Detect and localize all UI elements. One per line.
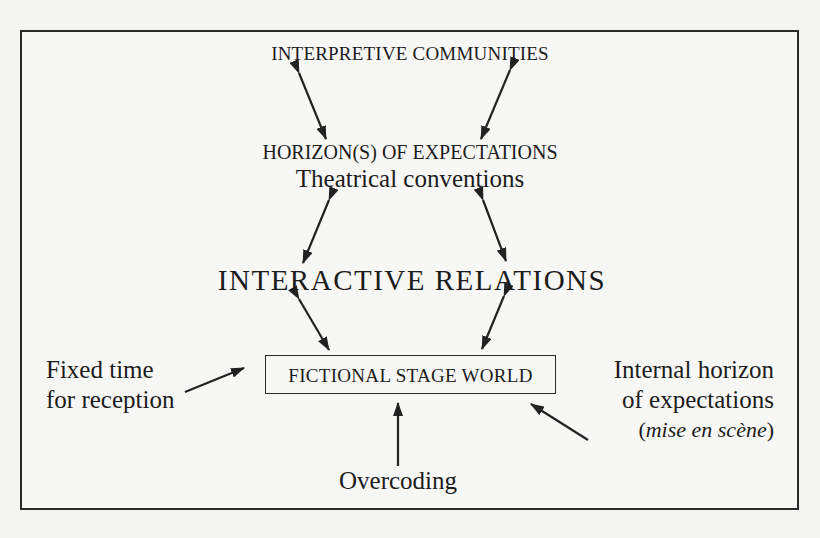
node-overcoding: Overcoding bbox=[339, 468, 457, 493]
arrow-relations-stage-right bbox=[482, 296, 504, 349]
mise-en-scene: mise en scène bbox=[646, 417, 767, 442]
internal-horizon-line1: Internal horizon bbox=[614, 355, 774, 385]
node-interpretive-communities: INTERPRETIVE COMMUNITIES bbox=[271, 44, 549, 63]
arrow-relations-stage-left bbox=[299, 299, 329, 350]
internal-horizon-line2: of expectations bbox=[614, 385, 774, 415]
arrow-communities-horizon-left bbox=[299, 73, 326, 139]
arrow-fixed-time bbox=[185, 368, 244, 392]
node-horizons-of-expectations: HORIZON(S) OF EXPECTATIONS bbox=[262, 142, 557, 162]
node-interactive-relations: INTERACTIVE RELATIONS bbox=[218, 266, 606, 295]
arrow-conventions-relations-left bbox=[303, 200, 329, 263]
node-fixed-time: Fixed time for reception bbox=[46, 355, 174, 415]
node-internal-horizon: Internal horizon of expectations (mise e… bbox=[614, 355, 774, 445]
arrow-communities-horizon-right bbox=[481, 70, 510, 139]
fixed-time-line1: Fixed time bbox=[46, 355, 174, 385]
node-fictional-stage-world-box: FICTIONAL STAGE WORLD bbox=[265, 355, 556, 394]
node-fictional-stage-world: FICTIONAL STAGE WORLD bbox=[266, 365, 555, 387]
arrow-internal-horizon bbox=[531, 404, 588, 440]
arrow-conventions-relations-right bbox=[483, 200, 506, 261]
fixed-time-line2: for reception bbox=[46, 385, 174, 415]
mise-en-scene-line: (mise en scène) bbox=[614, 415, 774, 445]
node-theatrical-conventions: Theatrical conventions bbox=[296, 166, 524, 191]
